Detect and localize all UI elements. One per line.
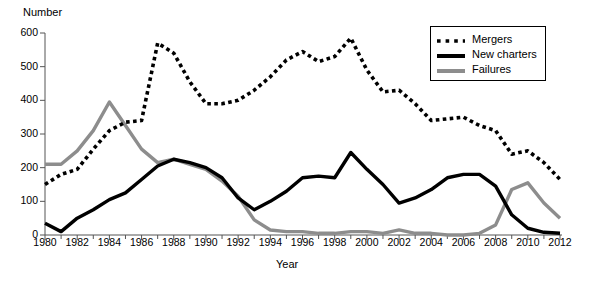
y-axis-ticks bbox=[40, 33, 45, 235]
legend-label: Failures bbox=[472, 63, 511, 75]
series-line-failures bbox=[45, 102, 560, 235]
y-tick-label: 200 bbox=[12, 161, 38, 173]
legend-swatch-icon bbox=[436, 63, 466, 75]
x-tick-label: 2008 bbox=[479, 236, 513, 248]
x-tick-label: 2002 bbox=[382, 236, 416, 248]
x-tick-label: 2000 bbox=[350, 236, 384, 248]
x-tick-label: 2012 bbox=[543, 236, 577, 248]
x-tick-label: 1982 bbox=[60, 236, 94, 248]
x-axis-title: Year bbox=[276, 258, 298, 270]
x-tick-label: 1992 bbox=[221, 236, 255, 248]
chart-legend: MergersNew chartersFailures bbox=[430, 26, 546, 81]
legend-label: New charters bbox=[472, 48, 537, 60]
x-tick-label: 1988 bbox=[157, 236, 191, 248]
x-tick-label: 1996 bbox=[286, 236, 320, 248]
y-tick-label: 400 bbox=[12, 93, 38, 105]
legend-swatch-icon bbox=[436, 33, 466, 45]
x-tick-label: 1994 bbox=[253, 236, 287, 248]
legend-item-mergers[interactable]: Mergers bbox=[436, 31, 540, 46]
x-tick-label: 1986 bbox=[125, 236, 159, 248]
series-line-new-charters bbox=[45, 153, 560, 234]
x-tick-label: 1998 bbox=[318, 236, 352, 248]
y-tick-label: 600 bbox=[12, 26, 38, 38]
y-tick-label: 500 bbox=[12, 60, 38, 72]
legend-swatch-icon bbox=[436, 48, 466, 60]
legend-label: Mergers bbox=[472, 33, 512, 45]
x-tick-label: 2006 bbox=[446, 236, 480, 248]
chart-container: Number Year 0100200300400500600 19801982… bbox=[0, 0, 592, 281]
x-tick-label: 1980 bbox=[28, 236, 62, 248]
x-tick-label: 1990 bbox=[189, 236, 223, 248]
legend-item-new-charters[interactable]: New charters bbox=[436, 46, 540, 61]
y-tick-label: 300 bbox=[12, 127, 38, 139]
y-axis-title: Number bbox=[23, 6, 62, 18]
x-tick-label: 1984 bbox=[92, 236, 126, 248]
x-tick-label: 2010 bbox=[511, 236, 545, 248]
legend-item-failures[interactable]: Failures bbox=[436, 61, 540, 76]
x-tick-label: 2004 bbox=[414, 236, 448, 248]
y-tick-label: 100 bbox=[12, 194, 38, 206]
